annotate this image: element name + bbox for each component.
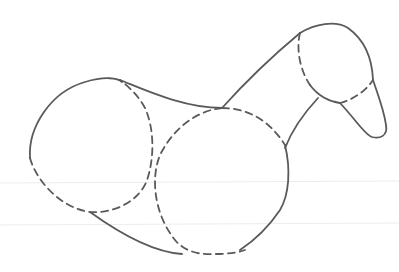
- rule-line: [0, 223, 399, 225]
- chest-construction-arc: [222, 108, 285, 145]
- head-lower-outline: [310, 85, 340, 103]
- head-outline: [300, 24, 373, 80]
- muzzle-outline: [340, 80, 386, 138]
- hindquarter-outline: [30, 78, 122, 158]
- head-construction-arc-left: [298, 33, 310, 85]
- animal-sketch: [0, 0, 399, 272]
- sketch-canvas: Construction sketch of an animal body (h…: [0, 0, 399, 272]
- chest-outline: [240, 145, 288, 250]
- neck-front-outline: [285, 98, 318, 148]
- head-construction-arc-right: [340, 80, 373, 103]
- belly-outline: [90, 212, 182, 254]
- chest-construction-circle: [155, 108, 245, 254]
- hindquarter-construction-circle: [30, 80, 152, 212]
- rule-line: [0, 181, 399, 183]
- neck-back-outline: [222, 33, 300, 108]
